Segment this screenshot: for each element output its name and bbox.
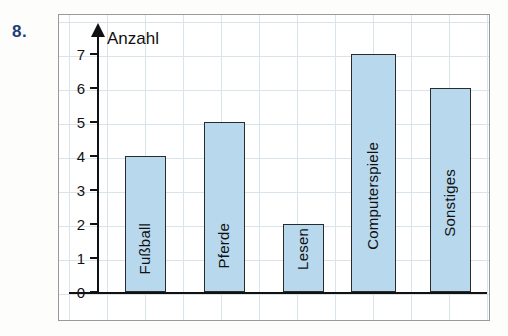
y-tick-label-1: 1 [67, 251, 85, 266]
worksheet-page: 8. [0, 0, 508, 336]
y-tick-6 [90, 87, 98, 89]
y-tick-label-7: 7 [67, 47, 85, 62]
bar-label-lesen: Lesen [295, 228, 310, 270]
y-tick-label-2: 2 [67, 217, 85, 232]
y-tick-label-3: 3 [67, 183, 85, 198]
y-tick-1 [90, 257, 98, 259]
y-axis-title: Anzahl [107, 29, 159, 49]
bar-label-computerspiele: Computerspiele [365, 142, 380, 250]
bar-label-sonstiges: Sonstiges [442, 169, 457, 237]
y-tick-3 [90, 189, 98, 191]
y-tick-label-4: 4 [67, 149, 85, 164]
plot-area: Anzahl 0 1 2 3 4 5 6 7 Fußball [59, 15, 489, 320]
exercise-number: 8. [12, 22, 27, 42]
x-axis-line [69, 292, 487, 294]
bar-label-fussball: Fußball [137, 223, 152, 274]
bar-chart: Anzahl 0 1 2 3 4 5 6 7 Fußball [58, 14, 490, 321]
y-tick-label-0: 0 [67, 285, 85, 300]
y-tick-7 [90, 53, 98, 55]
y-tick-4 [90, 155, 98, 157]
y-tick-label-6: 6 [67, 81, 85, 96]
y-tick-5 [90, 121, 98, 123]
y-tick-0 [90, 291, 98, 293]
y-axis-line [97, 35, 99, 293]
bar-label-pferde: Pferde [216, 223, 231, 268]
y-tick-label-5: 5 [67, 115, 85, 130]
y-tick-2 [90, 223, 98, 225]
